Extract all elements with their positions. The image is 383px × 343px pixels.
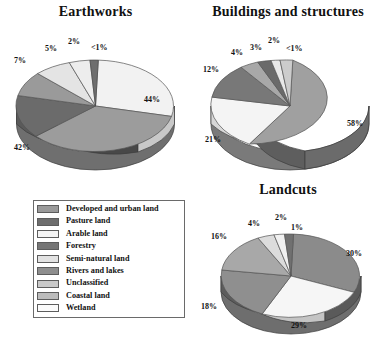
pct-earthworks-lt1: <1%: [91, 44, 108, 52]
pie-landcuts-slices: [221, 234, 359, 317]
legend-label: Rivers and lakes: [66, 267, 124, 275]
pct-landcuts-30: 30%: [346, 250, 362, 258]
legend-item: Rivers and lakes: [36, 265, 182, 277]
pct-landcuts-4: 4%: [248, 220, 260, 228]
legend-item: Wetland: [36, 302, 182, 314]
pct-buildings-lt1: <1%: [286, 45, 303, 53]
pct-earthworks-44: 44%: [144, 96, 160, 104]
legend-item: Semi-natural land: [36, 253, 182, 265]
legend-item: Unclassified: [36, 277, 182, 289]
pie-buildings-slices: [211, 60, 327, 144]
pct-earthworks-7: 7%: [14, 57, 26, 65]
pct-landcuts-2: 2%: [275, 214, 287, 222]
legend-swatch-pasture-land: [37, 218, 59, 226]
chart-title-earthworks: Earthworks: [0, 4, 191, 20]
legend-swatch-developed-and-urban-land: [37, 205, 59, 213]
pct-landcuts-18: 18%: [201, 303, 217, 311]
pct-landcuts-29: 29%: [291, 322, 307, 330]
pct-buildings-2: 2%: [268, 37, 280, 45]
legend-swatch-rivers-and-lakes: [37, 267, 59, 275]
legend-label: Coastal land: [66, 292, 110, 300]
legend-swatch-forestry: [37, 242, 59, 250]
pct-earthworks-2: 2%: [68, 38, 80, 46]
pie-landcuts: 30% 29% 18% 16% 4% 2% 1%: [213, 220, 373, 332]
pct-buildings-21: 21%: [205, 136, 221, 144]
pie-landcuts-svg: [213, 220, 373, 332]
legend-label: Developed and urban land: [66, 205, 159, 213]
legend-item: Coastal land: [36, 290, 182, 302]
pct-buildings-58: 58%: [347, 120, 363, 128]
pie-buildings-svg: [201, 44, 379, 164]
legend-item: Pasture land: [36, 215, 182, 227]
legend-label: Forestry: [66, 242, 96, 250]
pie-earthworks: 44% 42% 7% 5% 2% <1%: [8, 44, 183, 164]
legend-swatch-coastal-land: [37, 292, 59, 300]
chart-title-buildings: Buildings and structures: [193, 4, 383, 20]
chart-panel-earthworks: Earthworks: [0, 0, 191, 185]
pct-landcuts-16: 16%: [211, 233, 227, 241]
legend-label: Unclassified: [66, 279, 108, 287]
legend: Developed and urban land Pasture land Ar…: [33, 200, 185, 318]
pct-buildings-12: 12%: [203, 66, 219, 74]
legend-label: Pasture land: [66, 217, 110, 225]
legend-swatch-arable-land: [37, 230, 59, 238]
pie-earthworks-svg: [8, 44, 183, 164]
pct-buildings-3: 3%: [250, 44, 262, 52]
legend-item: Developed and urban land: [36, 203, 182, 215]
legend-item: Forestry: [36, 240, 182, 252]
legend-label: Arable land: [66, 230, 108, 238]
legend-swatch-semi-natural-land: [37, 255, 59, 263]
legend-item: Arable land: [36, 228, 182, 240]
legend-swatch-unclassified: [37, 280, 59, 288]
pct-landcuts-1: 1%: [291, 224, 303, 232]
chart-panel-landcuts: Landcuts: [193, 182, 383, 343]
pie-earthworks-slices: [16, 60, 174, 151]
pct-earthworks-42: 42%: [14, 144, 30, 152]
chart-title-landcuts: Landcuts: [193, 182, 383, 198]
pct-earthworks-5: 5%: [45, 45, 57, 53]
figure-canvas: Earthworks: [0, 0, 383, 343]
chart-panel-buildings: Buildings and structures: [193, 0, 383, 185]
legend-label: Wetland: [66, 304, 96, 312]
legend-swatch-wetland: [37, 304, 59, 312]
pie-buildings: 58% 21% 12% 4% 3% 2% <1%: [201, 44, 379, 164]
legend-label: Semi-natural land: [66, 255, 129, 263]
pct-buildings-4: 4%: [231, 49, 243, 57]
